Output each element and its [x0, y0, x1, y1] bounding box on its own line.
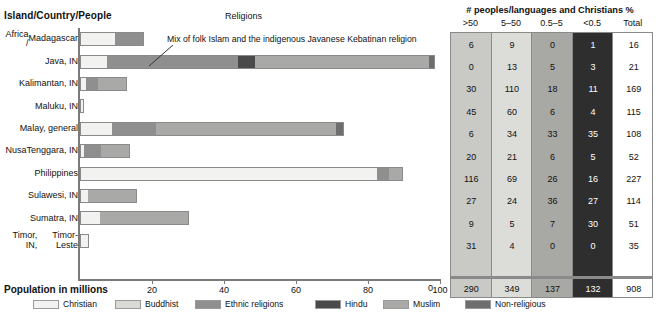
bar-segment-ethnic-religions [112, 122, 157, 136]
x-axis-tick-label: 60 [291, 285, 301, 295]
table-cell: 26 [533, 174, 573, 184]
table-cell: 6 [533, 152, 573, 162]
x-axis-tick-label: 80 [363, 285, 373, 295]
table-cell: 45 [451, 107, 491, 117]
bar-segment-muslim [389, 167, 403, 181]
x-axis-label: Population in millions [4, 284, 108, 295]
legend-swatch [115, 300, 141, 309]
bar-segment-christian [80, 211, 100, 225]
table-column-header: 0.5–5 [540, 18, 563, 28]
table-cell: 9 [492, 40, 532, 50]
table-cell: 116 [451, 174, 491, 184]
left-total-value: 0 [428, 283, 433, 293]
column-header-island: Island/Country/People [4, 10, 112, 21]
bar-segment-muslim [98, 77, 127, 91]
legend-item-hindu[interactable]: Hindu [315, 299, 367, 309]
bar-segment-muslim [156, 122, 336, 136]
table-cell: 35 [573, 129, 613, 139]
table-cell: 0 [533, 40, 573, 50]
stacked-bar [80, 189, 137, 203]
table-cell: 5 [573, 152, 613, 162]
table-cell: 0 [451, 62, 491, 72]
bar-segment-non-religious [429, 55, 435, 69]
bar-row-label: Sulawesi, IN [4, 185, 78, 207]
table-column-header: <0.5 [583, 18, 601, 28]
bar-row: Sumatra, IN [0, 207, 440, 229]
bar-segment-muslim [88, 189, 137, 203]
bar-row: Sulawesi, IN [0, 185, 440, 207]
chart-title-religions: Religions [225, 11, 262, 21]
table-cell: 1 [573, 40, 613, 50]
table-cell: 114 [614, 196, 654, 206]
bar-segment-muslim [100, 211, 189, 225]
bar-segment-christian [80, 55, 107, 69]
table-total-cell: 132 [573, 284, 613, 294]
table-total-cell: 290 [451, 284, 491, 294]
legend-label: Ethnic religions [225, 299, 283, 309]
table-cell: 0 [573, 241, 613, 251]
stacked-bar [80, 144, 130, 158]
table-cell: 21 [614, 62, 654, 72]
legend-swatch [33, 300, 59, 309]
table-total-row: 290349137132908 [450, 278, 653, 298]
stacked-bar [80, 77, 127, 91]
x-axis-tick-label: 40 [219, 285, 229, 295]
stacked-bar [80, 167, 403, 181]
annotation-text: Mix of folk Islam and the indigenous Jav… [167, 34, 417, 44]
bar-segment-ethnic-religions [377, 167, 389, 181]
table-cell: 27 [451, 196, 491, 206]
bar-row-label: Timor, IN,Timor-Leste [4, 230, 78, 252]
bar-segment-non-religious [336, 122, 344, 136]
stacked-bar [80, 55, 435, 69]
legend-item-christian[interactable]: Christian [33, 299, 97, 309]
legend-label: Hindu [345, 299, 367, 309]
legend-label: Christian [63, 299, 97, 309]
bar-segment-muslim [101, 144, 130, 158]
legend-swatch [315, 300, 341, 309]
legend-label: Buddhist [145, 299, 178, 309]
bar-segment-christian [80, 234, 89, 248]
legend-label: Muslim [413, 299, 440, 309]
legend-swatch [383, 300, 409, 309]
bar-row-label: Philippines [4, 162, 78, 184]
table-cell: 7 [533, 219, 573, 229]
table-cell: 108 [614, 129, 654, 139]
legend-item-muslim[interactable]: Muslim [383, 299, 440, 309]
table-cell: 5 [533, 62, 573, 72]
table-cell: 30 [573, 219, 613, 229]
x-axis-line [78, 279, 440, 281]
table-cell: 35 [614, 241, 654, 251]
bar-row-label: Africa /Madagascar [4, 28, 78, 50]
table-cell: 52 [614, 152, 654, 162]
x-axis-tick [152, 279, 153, 284]
bar-row-label: Sumatra, IN [4, 207, 78, 229]
table-cell: 9 [451, 219, 491, 229]
bar-segment-christian [80, 122, 112, 136]
bar-row: Kalimantan, IN [0, 73, 440, 95]
table-cell: 27 [573, 196, 613, 206]
bar-row-label: NusaTenggara, IN [4, 140, 78, 162]
table-cell: 36 [533, 196, 573, 206]
bar-segment-ethnic-religions [86, 77, 98, 91]
chart-panel: Island/Country/People Religions Africa /… [0, 0, 440, 313]
stacked-bar [80, 32, 144, 46]
bar-segment-christian [80, 99, 84, 113]
table-column-headers: >505–500.5–5<0.5Total [440, 18, 660, 30]
table-cell: 30 [451, 84, 491, 94]
x-axis-tick [368, 279, 369, 284]
table-total-cell: 908 [614, 284, 654, 294]
table-grid: 6901160135321301101811169456064115634333… [450, 32, 653, 278]
bar-row-label: Maluku, IN [4, 95, 78, 117]
table-cell: 0 [533, 241, 573, 251]
legend-item-buddhist[interactable]: Buddhist [115, 299, 178, 309]
bar-row: Maluku, IN [0, 95, 440, 117]
table-cell: 60 [492, 107, 532, 117]
table-cell: 3 [573, 62, 613, 72]
table-cell: 110 [492, 84, 532, 94]
x-axis-tick-label: 20 [147, 285, 157, 295]
table-column-header: >50 [463, 18, 478, 28]
table-cell: 18 [533, 84, 573, 94]
stacked-bar [80, 234, 89, 248]
table-cell: 16 [614, 40, 654, 50]
legend-item-ethnic-religions[interactable]: Ethnic religions [195, 299, 283, 309]
